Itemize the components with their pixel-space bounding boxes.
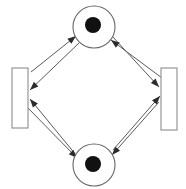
arrowhead-icon — [30, 99, 38, 108]
place-bottom[interactable] — [73, 144, 115, 186]
petri-net-canvas — [0, 0, 186, 189]
arc-top-place-to-left[interactable] — [112, 36, 159, 87]
arc-line — [112, 102, 159, 155]
arc-line — [31, 36, 76, 72]
arc-bottom-place-to-right[interactable] — [26, 106, 77, 158]
transition-layer — [12, 68, 177, 130]
arrowhead-icon — [67, 36, 76, 44]
arc-line — [30, 99, 76, 155]
petri-net-diagram — [0, 0, 186, 189]
arc-line — [113, 96, 160, 150]
arc-right-to-bottom-place[interactable] — [113, 96, 160, 150]
token-icon — [85, 156, 101, 172]
arc-layer — [26, 36, 162, 158]
token-icon — [85, 17, 101, 33]
place-layer — [73, 6, 115, 186]
arc-line — [112, 36, 159, 87]
arc-top-place-to-right[interactable] — [112, 102, 159, 155]
arc-left-to-top-place[interactable] — [31, 36, 76, 72]
arc-line — [26, 106, 77, 158]
arrowhead-icon — [111, 40, 120, 48]
transition-left[interactable] — [12, 68, 28, 128]
transition-right[interactable] — [161, 68, 177, 130]
arc-right-to-top-place[interactable] — [30, 99, 76, 155]
place-top[interactable] — [73, 6, 115, 48]
arc-line — [111, 40, 162, 78]
arc-left-to-bottom-place[interactable] — [111, 40, 162, 78]
